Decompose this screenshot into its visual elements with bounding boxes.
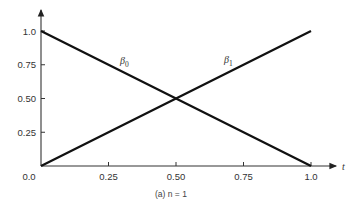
- y-tick-label-1: 1.0: [23, 26, 36, 37]
- y-tick-label-050: 0.50: [18, 93, 37, 104]
- figure-caption: (a) n = 1: [155, 189, 187, 199]
- x-tick-label-075: 0.75: [234, 171, 253, 182]
- x-tick-label-0: 0.0: [22, 171, 35, 182]
- x-tick-label-025: 0.25: [99, 171, 118, 182]
- x-axis-label: t: [342, 161, 345, 172]
- y-tick-label-025: 0.25: [18, 127, 37, 138]
- series-beta1-label: β1: [223, 54, 233, 68]
- chart: 1.0 0.75 0.50 0.25 0.0 0.25 0.50 0.75 1.…: [0, 0, 356, 218]
- x-tick-label-1: 1.0: [304, 171, 317, 182]
- x-tick-label-050: 0.50: [167, 171, 186, 182]
- y-tick-label-075: 0.75: [18, 59, 37, 70]
- series-beta0-label: β0: [119, 55, 129, 69]
- y-ticks: [41, 31, 45, 132]
- x-ticks: [109, 162, 312, 166]
